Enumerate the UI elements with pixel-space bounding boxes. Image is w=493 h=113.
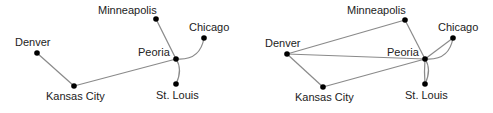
edge-denver-kansas_city [287, 54, 323, 87]
network-diagrams: DenverKansas CityPeoriaMinneapolisChicag… [0, 0, 493, 113]
node-peoria [173, 56, 179, 62]
edge-peoria-st_louis [425, 59, 429, 84]
label-kansas-city: Kansas City [46, 90, 105, 102]
edge-peoria-st_louis [176, 59, 180, 84]
node-denver [284, 51, 290, 57]
node-st-louis [173, 81, 179, 87]
label-minneapolis: Minneapolis [347, 4, 406, 16]
node-chicago [450, 35, 456, 41]
label-denver: Denver [15, 36, 51, 48]
label-st-louis: St. Louis [156, 89, 199, 101]
label-chicago: Chicago [189, 21, 229, 33]
node-st-louis [422, 81, 428, 87]
node-chicago [201, 35, 207, 41]
node-kansas-city [71, 83, 77, 89]
edge-peoria-chicago [176, 38, 204, 59]
left-diagram: DenverKansas CityPeoriaMinneapolisChicag… [15, 4, 229, 102]
node-denver [34, 50, 40, 56]
node-peoria [422, 56, 428, 62]
node-minneapolis [153, 16, 159, 22]
edge-denver-kansas_city [37, 53, 74, 86]
label-peoria: Peoria [138, 46, 171, 58]
node-kansas-city [320, 84, 326, 90]
label-chicago: Chicago [438, 21, 478, 33]
label-kansas-city: Kansas City [295, 91, 354, 103]
right-diagram: DenverKansas CityPeoriaMinneapolisChicag… [265, 4, 478, 103]
edge-kansas_city-peoria [323, 59, 425, 87]
label-denver: Denver [265, 37, 301, 49]
edge-kansas_city-peoria [74, 59, 176, 86]
label-st-louis: St. Louis [405, 89, 448, 101]
label-minneapolis: Minneapolis [98, 4, 157, 16]
edge-peoria-st_louis [425, 59, 426, 84]
node-minneapolis [402, 17, 408, 23]
label-peoria: Peoria [387, 46, 420, 58]
